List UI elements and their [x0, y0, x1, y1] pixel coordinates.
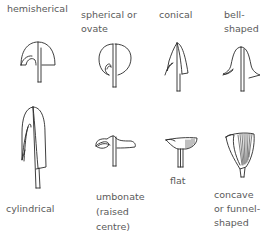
label-bell: bell- shaped	[224, 9, 259, 35]
umbonate-cap-icon	[93, 131, 139, 169]
label-line: conical	[159, 9, 192, 21]
label-line: spherical or	[81, 9, 137, 21]
label-line: bell-	[224, 9, 259, 21]
label-concave: concave or funnel- shaped	[214, 189, 260, 229]
spherical-cap-icon	[98, 41, 132, 91]
label-line: umbonate	[96, 191, 145, 203]
cylindrical-cap-icon	[17, 105, 51, 191]
concave-funnel-cap-icon	[222, 131, 258, 179]
hemispherical-cap-icon	[18, 40, 58, 85]
label-line: concave	[214, 189, 260, 201]
label-hemisherical: hemisherical	[7, 3, 68, 15]
flat-cap-icon	[164, 134, 200, 170]
label-line: shaped	[214, 217, 260, 229]
label-line: (raised	[96, 206, 145, 218]
label-line: hemisherical	[7, 3, 68, 15]
label-line: cylindrical	[6, 203, 54, 215]
label-cylindrical: cylindrical	[6, 203, 54, 215]
bell-shaped-cap-icon	[221, 45, 263, 93]
label-spherical: spherical or ovate	[81, 9, 137, 35]
label-line: shaped	[224, 23, 259, 35]
label-line: flat	[170, 175, 186, 187]
label-conical: conical	[159, 9, 192, 21]
conical-cap-icon	[159, 41, 193, 93]
label-flat: flat	[170, 175, 186, 187]
label-line: ovate	[81, 23, 137, 35]
label-line: or funnel-	[214, 203, 260, 215]
label-line: centre)	[96, 221, 145, 233]
label-umbonate: umbonate (raised centre)	[96, 191, 145, 233]
